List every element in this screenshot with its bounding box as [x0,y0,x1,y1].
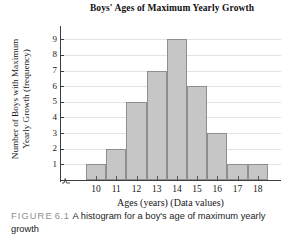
y-axis-tick-label: 5 [43,97,57,106]
y-axis-tick-labels: 987654321 [42,26,57,181]
y-axis-tick-label: 6 [43,82,57,91]
x-axis-tick-mark [197,176,198,180]
y-axis-title: Number of Boys with Maximum Yearly Growt… [10,14,32,184]
chart-title: Boys' Ages of Maximum Yearly Growth [60,3,284,13]
x-axis-title: Ages (years) (Data values) [60,197,281,208]
y-axis-tick-label: 1 [43,160,57,169]
x-axis-tick-mark [116,176,117,180]
x-axis-tick-mark [177,176,178,180]
histogram-bar [187,86,207,180]
y-axis-tick-label: 2 [43,144,57,153]
histogram-bar [126,102,146,180]
x-axis-tick-mark [137,176,138,180]
x-axis-tick-label: 15 [187,184,207,195]
x-axis-tick-label: 11 [106,184,126,195]
x-axis-line [60,180,281,181]
y-axis-tick-label: 8 [43,50,57,59]
y-axis-line [60,26,61,182]
x-axis-tick-mark [157,176,158,180]
x-axis-tick-label: 13 [147,184,167,195]
y-axis-tick-label: 9 [43,35,57,44]
x-axis-tick-label: 12 [127,184,147,195]
x-axis-tick-mark [238,176,239,180]
figure-caption: FIGURE6.1A histogram for a boy's age of … [11,210,279,235]
histogram-bar [207,133,227,180]
x-axis-tick-label: 17 [228,184,248,195]
histogram-bars [60,26,281,180]
y-axis-title-line-1: Number of Boys with Maximum [10,14,21,184]
x-axis-tick-label: 18 [248,184,268,195]
y-axis-tick-label: 3 [43,129,57,138]
x-axis-tick-mark [217,176,218,180]
y-axis-tick-label: 7 [43,66,57,75]
histogram-bar [167,39,187,180]
x-axis-tick-label: 16 [207,184,227,195]
histogram-bar [147,71,167,180]
figure-histogram: Boys' Ages of Maximum Yearly Growth 9876… [0,0,288,243]
axis-break-mark [62,177,70,184]
x-axis-tick-label: 14 [167,184,187,195]
x-axis-tick-mark [258,176,259,180]
y-axis-tick-label: 4 [43,113,57,122]
caption-figure-label: FIGURE [11,211,53,221]
caption-figure-number: 6.1 [55,211,70,221]
x-axis-tick-mark [96,176,97,180]
x-axis-tick-label: 10 [86,184,106,195]
y-axis-title-line-2: Yearly Growth (frequency) [21,14,32,184]
